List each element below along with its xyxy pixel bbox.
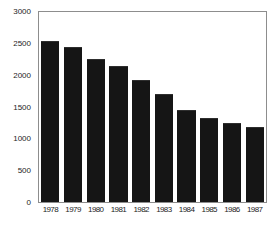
y-tick-label: 500 [18, 166, 31, 175]
bar [41, 41, 59, 202]
bar [246, 127, 264, 202]
bar [87, 59, 105, 202]
bar [223, 123, 241, 202]
x-tick-label: 1981 [107, 205, 130, 214]
x-tick-label: 1986 [221, 205, 244, 214]
x-axis: 1978197919801981198219831984198519861987 [39, 205, 266, 219]
chart-figure: 050010001500200025003000 197819791980198… [0, 0, 275, 225]
y-tick-label: 1500 [13, 102, 31, 111]
y-tick-label: 1000 [13, 134, 31, 143]
bar [155, 94, 173, 202]
x-tick-label: 1982 [130, 205, 153, 214]
bar [64, 47, 82, 202]
bar [177, 110, 195, 202]
bar-slot [62, 12, 85, 202]
y-tick-label: 3000 [13, 7, 31, 16]
bar [132, 80, 150, 202]
x-tick-label: 1984 [175, 205, 198, 214]
bar-slot [153, 12, 176, 202]
y-tick-label: 2500 [13, 38, 31, 47]
bar-slot [198, 12, 221, 202]
bar-slot [130, 12, 153, 202]
bar [109, 66, 127, 202]
x-tick-label: 1985 [198, 205, 221, 214]
x-tick-label: 1978 [39, 205, 62, 214]
x-tick-label: 1980 [84, 205, 107, 214]
y-tick-label: 2000 [13, 70, 31, 79]
bar [200, 118, 218, 202]
bar-slot [221, 12, 244, 202]
bar-series [39, 12, 266, 202]
bar-slot [243, 12, 266, 202]
x-tick-label: 1987 [243, 205, 266, 214]
bar-slot [39, 12, 62, 202]
chart-title-clip [0, 0, 275, 6]
x-tick-label: 1979 [62, 205, 85, 214]
bar-slot [84, 12, 107, 202]
x-tick-label: 1983 [153, 205, 176, 214]
bar-slot [175, 12, 198, 202]
bar-slot [107, 12, 130, 202]
y-axis: 050010001500200025003000 [0, 0, 38, 225]
y-tick-label: 0 [27, 198, 31, 207]
